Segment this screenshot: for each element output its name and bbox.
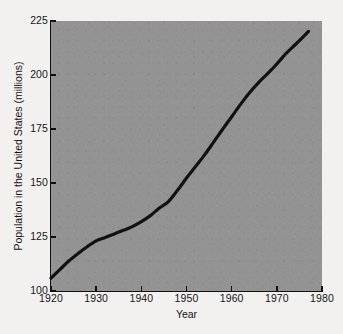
- y-tick-200: [51, 74, 56, 75]
- x-tick-1970: [276, 286, 277, 291]
- y-tick-label-200: 200: [30, 68, 48, 80]
- y-tick-125: [51, 236, 56, 237]
- x-tick-label-1930: 1930: [84, 292, 108, 304]
- x-tick-1950: [186, 286, 187, 291]
- data-line-svg: [51, 21, 322, 291]
- x-tick-1930: [95, 286, 96, 291]
- y-tick-label-125: 125: [30, 230, 48, 242]
- population-line-chart: 100125150175200225 192019301940195019601…: [0, 0, 343, 334]
- x-tick-1960: [231, 286, 232, 291]
- x-axis-title: Year: [51, 308, 322, 320]
- y-tick-175: [51, 128, 56, 129]
- x-tick-1920: [50, 286, 51, 291]
- y-tick-label-175: 175: [30, 122, 48, 134]
- x-tick-label-1920: 1920: [39, 292, 63, 304]
- y-axis-line: [50, 20, 51, 292]
- y-tick-label-225: 225: [30, 14, 48, 26]
- x-tick-label-1960: 1960: [220, 292, 244, 304]
- x-tick-label-1970: 1970: [265, 292, 289, 304]
- x-tick-1940: [141, 286, 142, 291]
- x-tick-label-1950: 1950: [175, 292, 199, 304]
- x-tick-label-1980: 1980: [310, 292, 334, 304]
- y-axis-title: Population in the United States (million…: [12, 21, 26, 291]
- y-tick-label-150: 150: [30, 176, 48, 188]
- x-tick-1980: [321, 286, 322, 291]
- y-tick-150: [51, 182, 56, 183]
- plot-area: [51, 21, 322, 291]
- y-tick-225: [51, 20, 56, 21]
- population-curve: [51, 31, 308, 278]
- x-tick-label-1940: 1940: [129, 292, 153, 304]
